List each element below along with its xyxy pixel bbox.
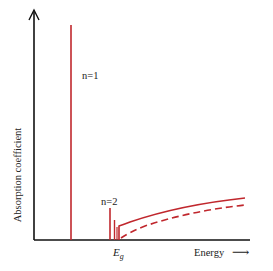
absorption-curve-dashed	[121, 205, 245, 238]
x-axis-label: Energy	[194, 247, 225, 258]
x-axis-arrow-icon: ⟶	[232, 245, 249, 259]
absorption-curve-solid	[119, 198, 245, 240]
n1-label: n=1	[82, 70, 98, 81]
eg-label: Eg	[112, 246, 124, 261]
n2-label: n=2	[101, 196, 117, 207]
absorption-diagram: Absorption coefficient n=1 n=2 Eg Energy…	[0, 0, 273, 271]
y-axis-label: Absorption coefficient	[12, 128, 23, 223]
